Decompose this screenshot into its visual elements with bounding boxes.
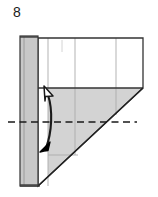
left-vertical-strip <box>20 36 38 186</box>
white-upper-panel <box>38 38 143 88</box>
origami-step-figure: 8 <box>0 0 158 197</box>
origami-diagram-svg <box>0 0 158 197</box>
white-gap-column <box>38 38 48 186</box>
